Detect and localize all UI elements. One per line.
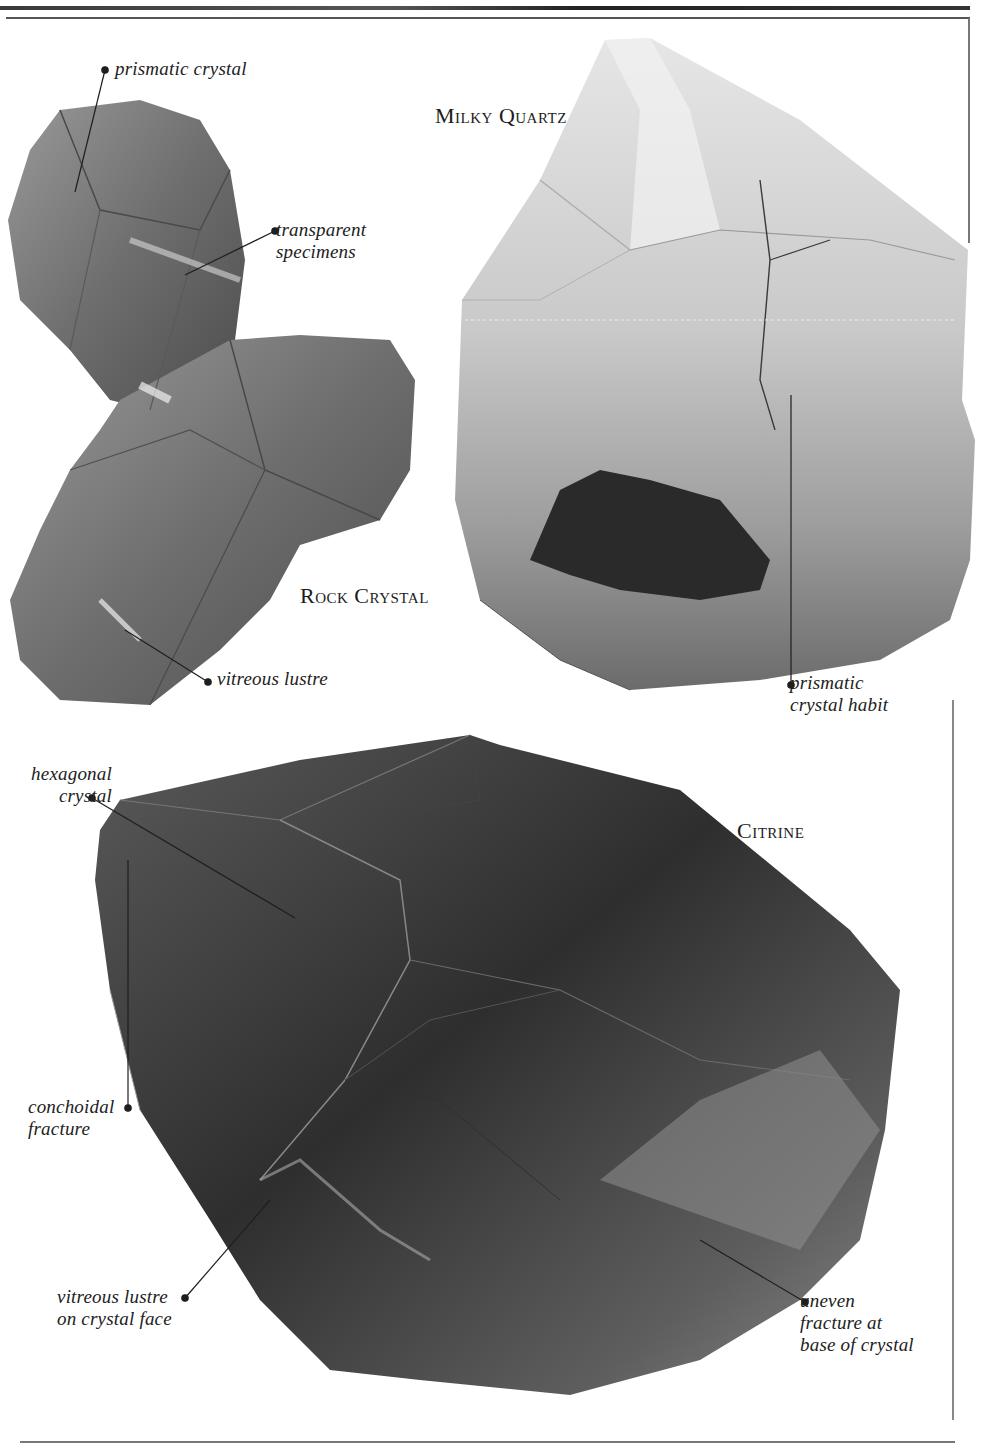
book-page: Milky Quartz Rock Crystal Citrine prisma… (0, 0, 996, 1450)
label-hexagonal-crystal: hexagonal crystal (20, 763, 112, 807)
label-uneven-fracture: uneven fracture at base of crystal (800, 1290, 914, 1356)
milky-quartz-title: Milky Quartz (435, 103, 567, 129)
rock-crystal-specimen (8, 100, 415, 705)
label-vitreous-lustre: vitreous lustre (217, 668, 328, 690)
specimen-illustrations (0, 0, 996, 1450)
label-prismatic-crystal: prismatic crystal (115, 58, 247, 80)
label-vitreous-lustre-crystal-face: vitreous lustre on crystal face (57, 1286, 172, 1330)
rock-crystal-title: Rock Crystal (300, 583, 429, 609)
milky-quartz-specimen (455, 38, 975, 690)
label-conchoidal-fracture: conchoidal fracture (28, 1096, 114, 1140)
citrine-title: Citrine (737, 818, 804, 844)
label-transparent-specimens: transparent specimens (276, 219, 366, 263)
label-prismatic-crystal-habit: prismatic crystal habit (790, 672, 888, 716)
